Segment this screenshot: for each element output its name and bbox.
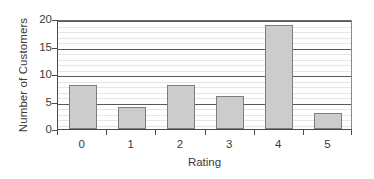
y-axis-tick-label: 15	[30, 42, 52, 54]
x-axis-tick-label: 4	[254, 137, 303, 151]
bar	[265, 25, 293, 130]
x-axis-tick-mark	[57, 130, 58, 135]
x-axis-tick-labels: 012345	[57, 137, 352, 153]
bars-layer	[58, 21, 351, 129]
bar	[216, 96, 244, 129]
x-axis-tick-mark	[351, 130, 352, 135]
bar	[118, 107, 146, 129]
y-axis-tick-label: 10	[30, 69, 52, 81]
x-axis-tick-mark	[106, 130, 107, 135]
y-axis-tick-label: 5	[30, 97, 52, 109]
bar-chart: Number of Customers 05101520 012345 Rati…	[0, 0, 374, 179]
y-axis-tick-label: 20	[30, 14, 52, 26]
bar	[167, 85, 195, 129]
x-axis-tick-mark	[303, 130, 304, 135]
x-axis-tick-mark	[254, 130, 255, 135]
bar	[314, 113, 342, 130]
x-axis-tick-mark	[205, 130, 206, 135]
x-axis-tick-mark	[155, 130, 156, 135]
x-axis-tick-label: 1	[106, 137, 155, 151]
bar	[69, 85, 97, 129]
plot-area	[57, 20, 352, 130]
x-axis-title: Rating	[57, 155, 352, 169]
x-axis-tick-marks	[57, 130, 352, 136]
x-axis-tick-label: 2	[155, 137, 204, 151]
y-axis-tick-label: 0	[30, 124, 52, 136]
x-axis-tick-label: 3	[205, 137, 254, 151]
x-axis-tick-label: 5	[303, 137, 352, 151]
x-axis-tick-label: 0	[57, 137, 106, 151]
y-axis-tick-labels: 05101520	[30, 0, 52, 179]
